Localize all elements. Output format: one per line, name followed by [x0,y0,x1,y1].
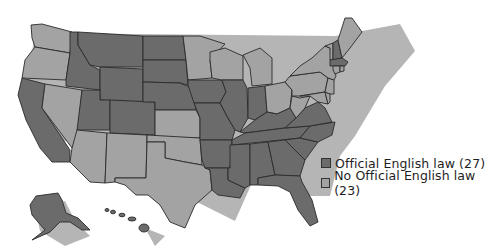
state-hi [105,209,149,233]
state-ar [200,140,232,168]
state-ct [333,66,340,74]
legend-item-no-official: No Official English law (23) [321,173,487,193]
legend-swatch-no-official [321,178,330,188]
state-iowa [188,80,226,103]
state-nm [105,133,147,183]
state-sd [143,60,188,85]
state-mt [78,32,143,67]
state-ri [340,66,344,72]
us-map [0,0,487,252]
state-ks [155,110,200,138]
legend-swatch-official [321,158,331,168]
state-nd [143,36,186,60]
legend-label-no-official: No Official English law (23) [334,168,487,198]
state-co [110,100,155,135]
map-legend: Official English law (27) No Official En… [321,153,487,193]
state-or [22,47,70,80]
state-wy [100,67,143,102]
state-az [70,130,107,183]
state-ms [228,144,250,188]
